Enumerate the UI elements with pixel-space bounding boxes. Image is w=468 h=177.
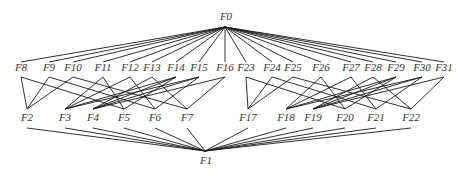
node-f6: F6 <box>149 111 161 123</box>
edge-F31-F22 <box>411 77 444 109</box>
edge-F0-F8 <box>21 27 225 62</box>
node-f1: F1 <box>200 154 212 166</box>
edge-F0-F29 <box>225 27 396 62</box>
node-f10: F10 <box>64 61 82 73</box>
edge-F0-F12 <box>130 27 225 62</box>
edge-F0-F30 <box>225 27 422 62</box>
node-f3: F3 <box>59 111 71 123</box>
node-f27: F27 <box>342 61 360 73</box>
node-f4: F4 <box>87 111 99 123</box>
node-f13: F13 <box>143 61 161 73</box>
edge-F2-F1 <box>27 128 205 151</box>
node-f19: F19 <box>304 111 322 123</box>
node-f8: F8 <box>15 61 27 73</box>
node-f24: F24 <box>263 61 281 73</box>
node-f21: F21 <box>367 111 385 123</box>
lattice-diagram: F0F1F8F9F10F11F12F13F14F15F16F23F24F25F2… <box>0 0 468 177</box>
edge-F23-F17 <box>246 77 248 109</box>
edge-F9-F2 <box>27 77 49 109</box>
node-f2: F2 <box>21 111 33 123</box>
node-f25: F25 <box>284 61 302 73</box>
node-f18: F18 <box>277 111 295 123</box>
node-f29: F29 <box>387 61 405 73</box>
edge-F22-F1 <box>205 128 411 151</box>
edge-F0-F28 <box>225 27 373 62</box>
edge-layer <box>0 0 468 177</box>
node-f30: F30 <box>413 61 431 73</box>
edge-F0-F9 <box>49 27 225 62</box>
edge-F19-F1 <box>205 128 313 151</box>
node-f28: F28 <box>364 61 382 73</box>
edge-F0-F10 <box>73 27 225 62</box>
node-f9: F9 <box>43 61 55 73</box>
edge-F0-F31 <box>225 27 444 62</box>
edge-F0-F26 <box>225 27 321 62</box>
edge-F8-F2 <box>21 77 27 109</box>
node-f22: F22 <box>402 111 420 123</box>
node-f11: F11 <box>95 61 112 73</box>
node-f16: F16 <box>216 61 234 73</box>
edge-F8-F5 <box>21 77 124 109</box>
node-f14: F14 <box>167 61 185 73</box>
node-f20: F20 <box>336 111 354 123</box>
node-f5: F5 <box>118 111 130 123</box>
node-f15: F15 <box>190 61 208 73</box>
node-f12: F12 <box>121 61 139 73</box>
node-f26: F26 <box>312 61 330 73</box>
edge-F14-F4 <box>93 77 176 109</box>
node-f7: F7 <box>181 111 193 123</box>
edge-F4-F1 <box>93 128 205 151</box>
node-f17: F17 <box>239 111 257 123</box>
edge-F24-F21 <box>272 77 376 109</box>
node-f0: F0 <box>220 10 232 22</box>
node-f31: F31 <box>435 61 453 73</box>
node-f23: F23 <box>237 61 255 73</box>
edge-F21-F1 <box>205 128 376 151</box>
